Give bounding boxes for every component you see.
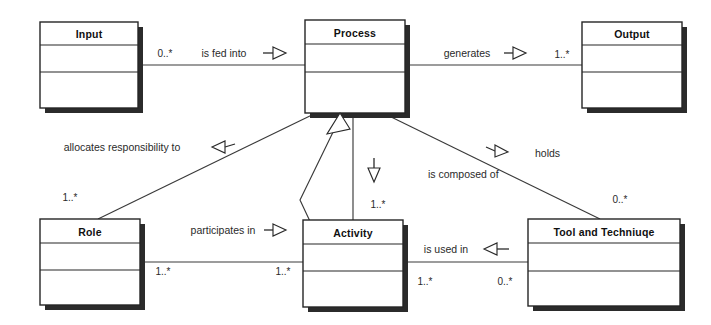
assoc-label-is-fed-into: is fed into <box>202 47 247 59</box>
arrow-left-icon-is-used-in <box>484 243 509 255</box>
assoc-label-allocates-responsibility-to: allocates responsibility to <box>64 141 181 153</box>
arrow-right-icon-participates-in <box>264 224 286 236</box>
class-name-activity: Activity <box>333 227 373 239</box>
class-box-activity[interactable]: Activity <box>303 220 408 312</box>
class-box-tool-and-technique[interactable]: Tool and Techniuqe <box>528 219 685 311</box>
multiplicity-role-to-activity-left: 1..* <box>155 266 170 277</box>
arrow-right-icon-holds <box>486 145 508 157</box>
arrow-right-icon-is-fed-into <box>263 47 286 59</box>
assoc-label-is-composed-of: is composed of <box>428 168 499 180</box>
multiplicity-activity-to-tool-right: 0..* <box>497 276 512 287</box>
class-name-tool-and-technique: Tool and Techniuqe <box>553 226 654 238</box>
multiplicity-tool-to-process: 0..* <box>612 194 627 205</box>
assoc-label-is-used-in: is used in <box>424 243 469 255</box>
assoc-label-participates-in: participates in <box>191 224 256 236</box>
assoc-line-process-role <box>98 113 316 219</box>
class-box-process[interactable]: Process <box>305 20 410 118</box>
class-box-output[interactable]: Output <box>582 22 687 113</box>
assoc-line-process-tool <box>383 113 600 219</box>
class-name-process: Process <box>334 27 376 39</box>
class-name-role: Role <box>78 226 102 238</box>
multiplicity-activity-to-process: 1..* <box>370 199 385 210</box>
arrow-down-icon-is-composed-of <box>368 158 380 182</box>
class-box-input[interactable]: Input <box>40 22 143 113</box>
assoc-label-generates: generates <box>444 47 491 59</box>
assoc-label-holds: holds <box>535 147 560 159</box>
arrow-right-icon-generates <box>504 47 526 59</box>
class-name-input: Input <box>76 28 103 40</box>
multiplicity-role-to-process: 1..* <box>62 192 77 203</box>
diagram-canvas: Input Process Output Role <box>0 0 711 325</box>
arrow-left-icon-allocates <box>212 141 235 153</box>
class-box-role[interactable]: Role <box>40 219 145 310</box>
multiplicity-process-to-output: 1..* <box>554 49 569 60</box>
multiplicity-input-to-process: 0..* <box>157 48 172 59</box>
multiplicity-activity-to-tool-left: 1..* <box>417 276 432 287</box>
multiplicity-role-to-activity-right: 1..* <box>275 266 290 277</box>
uml-class-diagram: Input Process Output Role <box>0 0 711 325</box>
class-name-output: Output <box>614 28 650 40</box>
